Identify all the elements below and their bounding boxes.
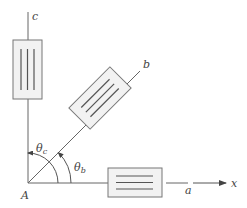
label-b: b [143, 58, 150, 71]
label-c: c [32, 10, 38, 23]
theta-c-subscript: c [43, 147, 48, 156]
theta-b-arc [58, 153, 71, 183]
gauge-b [69, 67, 131, 129]
label-theta-c: θc [36, 142, 48, 156]
gauge-b-group: b [28, 58, 150, 183]
label-theta-b: θb [74, 161, 86, 175]
diagram-svg: c b a x θc θb [0, 0, 247, 208]
label-origin-a: A [20, 189, 29, 202]
theta-b-subscript: b [81, 166, 86, 175]
label-a: a [185, 184, 192, 197]
label-x: x [231, 177, 238, 190]
rosette-diagram: c b a x θc θb [0, 0, 247, 208]
gauge-a-group: a x [28, 168, 238, 197]
gauge-c-group: c [13, 10, 42, 183]
